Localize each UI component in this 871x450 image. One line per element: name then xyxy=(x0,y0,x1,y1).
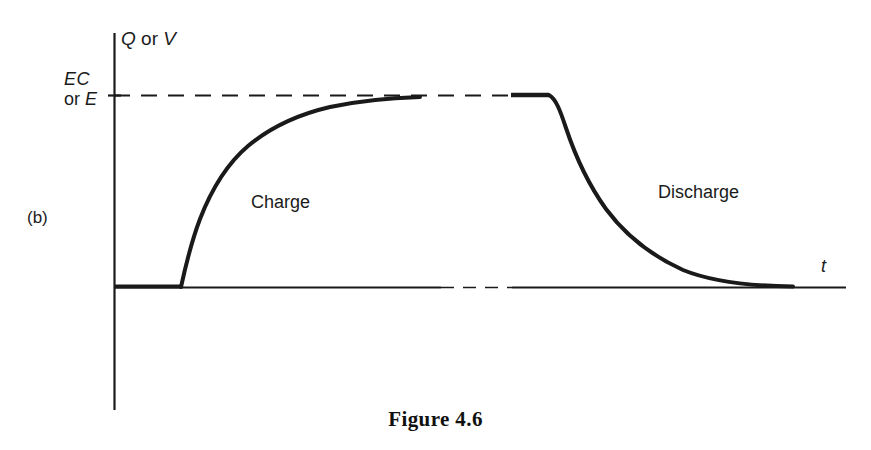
panel-label: (b) xyxy=(27,208,48,227)
figure-caption: Figure 4.6 xyxy=(0,408,871,432)
y-axis-label-v: V xyxy=(163,28,176,49)
ec-level-label: EC or E xyxy=(64,69,97,109)
figure-container: (b) Q or V EC or E Charge Discharge t Fi… xyxy=(0,0,871,450)
figure-plot-svg xyxy=(0,0,871,450)
discharge-curve-label: Discharge xyxy=(658,182,739,202)
charge-curve-label: Charge xyxy=(251,192,310,212)
ec-level-label-or: or xyxy=(64,89,85,109)
ec-level-label-e: E xyxy=(85,89,97,109)
y-axis-label-q: Q xyxy=(121,28,136,49)
y-axis-label: Q or V xyxy=(121,28,176,49)
ec-level-label-line2: or E xyxy=(64,89,97,109)
ec-level-label-line1: EC xyxy=(64,69,97,89)
y-axis-label-or: or xyxy=(136,28,163,49)
x-axis-label: t xyxy=(821,256,826,276)
